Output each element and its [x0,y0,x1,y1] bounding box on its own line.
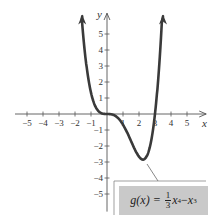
formula-minus: − [181,193,188,208]
formula-lhs: g(x) = [130,193,160,208]
annotation-leader-line [147,164,158,181]
y-tick-label: 5 [99,29,104,39]
y-axis-label: y [96,8,102,20]
axes [15,13,206,211]
x-tick-label: 4 [169,118,174,128]
y-tick-label: −2 [93,141,103,151]
fraction-denominator: 3 [166,201,171,210]
y-tick-label: 4 [99,45,104,55]
y-tick-label: 1 [99,93,104,103]
x-tick-label: −2 [70,118,80,128]
y-tick-label: −5 [93,189,103,199]
y-tick-label: 2 [99,77,104,87]
curve-g [82,16,163,159]
x-tick-label: −5 [22,118,32,128]
x-tick-label: 5 [185,118,190,128]
y-tick-label: −4 [93,173,103,183]
function-label-box: g(x) = 1 3 x4 − x3 [119,186,208,215]
formula-exp2: 3 [193,197,197,205]
x-tick-label: −4 [38,118,48,128]
y-tick-label: −3 [93,157,103,167]
x-tick-label: −3 [54,118,64,128]
x-tick-label: 2 [137,118,142,128]
y-tick-label: 3 [99,61,104,71]
x-axis-label: x [201,117,207,129]
y-tick-label: −1 [93,125,103,135]
formula-fraction: 1 3 [165,191,172,210]
